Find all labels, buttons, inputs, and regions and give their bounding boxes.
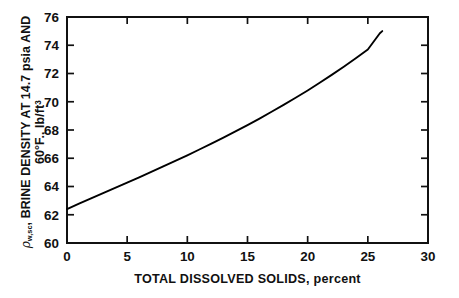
y-tick-label: 62 (44, 208, 59, 223)
x-axis-tick-labels: 051015202530 (63, 249, 435, 264)
x-tick-label: 5 (123, 249, 131, 264)
x-tick-label: 30 (421, 249, 436, 264)
y-tick-label: 70 (44, 95, 59, 110)
y-tick-label: 60 (44, 236, 59, 251)
chart-canvas: 051015202530 606264666870727476 (0, 0, 459, 298)
y-tick-label: 74 (44, 38, 59, 53)
data-line-brine-density (67, 31, 382, 209)
y-axis-ticks-left (67, 45, 74, 215)
x-tick-label: 20 (300, 249, 315, 264)
data-series-group (67, 31, 382, 209)
y-tick-label: 68 (44, 123, 59, 138)
x-tick-label: 15 (240, 249, 255, 264)
y-tick-label: 76 (44, 10, 59, 25)
y-axis-tick-labels: 606264666870727476 (44, 10, 59, 251)
y-tick-label: 72 (44, 66, 59, 81)
x-axis-ticks-bottom (127, 236, 368, 243)
y-axis-ticks-right (421, 45, 428, 215)
x-tick-label: 25 (360, 249, 375, 264)
figure-container: 051015202530 606264666870727476 ρw,sc, B… (0, 0, 459, 298)
x-tick-label: 0 (63, 249, 70, 264)
y-tick-label: 64 (44, 179, 59, 194)
x-tick-label: 10 (180, 249, 195, 264)
y-tick-label: 66 (44, 151, 59, 166)
plot-frame (67, 17, 428, 243)
x-axis-ticks-top (127, 17, 368, 24)
